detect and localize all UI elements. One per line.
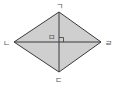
center-label: ㅁ bbox=[48, 33, 55, 42]
vertex-label-top: ㄱ bbox=[56, 2, 63, 11]
rhombus-diagram: ㄱ ㄴ ㄷ ㄹ ㅁ bbox=[0, 0, 121, 92]
vertex-label-right: ㄹ bbox=[105, 39, 112, 48]
vertex-label-bottom: ㄷ bbox=[55, 76, 62, 85]
vertex-label-left: ㄴ bbox=[3, 39, 10, 48]
